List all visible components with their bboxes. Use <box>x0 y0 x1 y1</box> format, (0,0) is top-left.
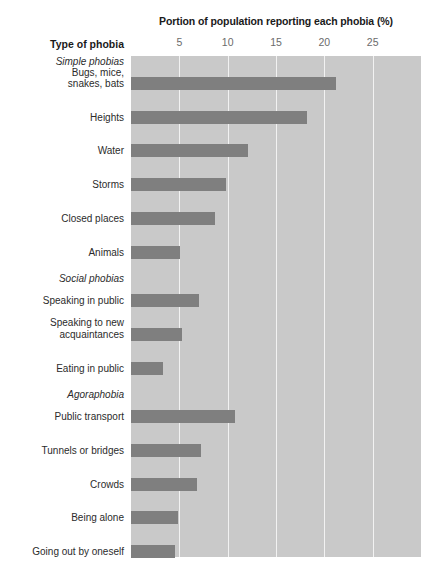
gridline-15 <box>276 56 277 557</box>
category-label-text: Being alone <box>0 512 124 524</box>
bar <box>131 111 307 124</box>
x-tick-label-25: 25 <box>358 36 388 48</box>
x-tick-label-5: 5 <box>164 36 194 48</box>
list-item: Speaking to newacquaintances <box>0 317 124 340</box>
list-item: Closed places <box>0 213 124 225</box>
bar <box>131 212 215 225</box>
category-label-text: Closed places <box>0 213 124 225</box>
bar <box>131 144 248 157</box>
category-label-text: Public transport <box>0 411 124 423</box>
list-item: Going out by oneself <box>0 546 124 558</box>
gridline-25 <box>373 56 374 557</box>
bar <box>131 246 180 259</box>
category-label-text: Tunnels or bridges <box>0 445 124 457</box>
gridline-10 <box>228 56 229 557</box>
list-item: Bugs, mice,snakes, bats <box>0 67 124 90</box>
bar <box>131 328 182 341</box>
plot-area <box>131 56 421 557</box>
category-label-text: acquaintances <box>0 329 124 341</box>
list-item: Crowds <box>0 479 124 491</box>
category-label-text: Speaking in public <box>0 295 124 307</box>
category-label-text: Crowds <box>0 479 124 491</box>
bar <box>131 178 226 191</box>
bar <box>131 362 163 375</box>
list-item: Eating in public <box>0 363 124 375</box>
chart-value-axis-title: Portion of population reporting each pho… <box>131 15 421 27</box>
list-item: Public transport <box>0 411 124 423</box>
phobia-bar-chart: Portion of population reporting each pho… <box>0 0 441 579</box>
group-label-text: Social phobias <box>0 273 124 285</box>
group-label: Social phobias <box>0 273 124 285</box>
bar <box>131 511 178 524</box>
bar <box>131 294 199 307</box>
x-axis-tick-labels: 510152025 <box>0 36 441 52</box>
list-item: Tunnels or bridges <box>0 445 124 457</box>
category-label-text: Going out by oneself <box>0 546 124 558</box>
category-label-text: Animals <box>0 247 124 259</box>
category-label-text: Water <box>0 145 124 157</box>
gridline-20 <box>324 56 325 557</box>
list-item: Being alone <box>0 512 124 524</box>
category-label-text: Speaking to new <box>0 317 124 329</box>
category-label-text: Bugs, mice, <box>0 67 124 79</box>
bar <box>131 410 235 423</box>
category-label-text: Eating in public <box>0 363 124 375</box>
bar <box>131 77 336 90</box>
list-item: Speaking in public <box>0 295 124 307</box>
list-item: Water <box>0 145 124 157</box>
group-label: Agoraphobia <box>0 389 124 401</box>
bar <box>131 444 201 457</box>
bar <box>131 478 197 491</box>
list-item: Heights <box>0 112 124 124</box>
category-label-text: Heights <box>0 112 124 124</box>
x-tick-label-10: 10 <box>213 36 243 48</box>
category-label-text: snakes, bats <box>0 78 124 90</box>
list-item: Animals <box>0 247 124 259</box>
category-labels: Simple phobiasBugs, mice,snakes, batsHei… <box>0 56 124 557</box>
group-label-text: Agoraphobia <box>0 389 124 401</box>
x-tick-label-20: 20 <box>309 36 339 48</box>
category-label-text: Storms <box>0 179 124 191</box>
x-tick-label-15: 15 <box>261 36 291 48</box>
list-item: Storms <box>0 179 124 191</box>
bar <box>131 545 175 558</box>
